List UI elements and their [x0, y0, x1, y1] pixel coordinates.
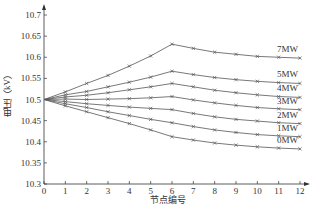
- y-tick-label: 10.7: [25, 10, 41, 20]
- series-label: 2MW: [277, 110, 299, 120]
- x-tick-label: 7: [191, 186, 196, 196]
- x-tick-label: 12: [296, 186, 305, 196]
- series-line-1MW: [44, 100, 300, 137]
- x-marker-icon: [128, 65, 131, 68]
- y-axis-title: 电压（kV）: [2, 70, 16, 117]
- x-tick-label: 10: [253, 186, 263, 196]
- y-tick-label: 10.6: [25, 52, 41, 62]
- x-tick-label: 4: [127, 186, 132, 196]
- series-label: 5MW: [277, 69, 299, 79]
- x-axis-title: 节点编号: [150, 193, 186, 206]
- x-axis-arrow-icon: [304, 182, 310, 186]
- x-tick-label: 9: [234, 186, 239, 196]
- x-tick-label: 1: [63, 186, 68, 196]
- series-label: 0MW: [277, 135, 299, 145]
- series-line-4MW: [44, 83, 300, 99]
- voltage-line-chart: 10.310.3510.410.4510.510.5510.610.6510.7…: [0, 0, 312, 209]
- x-tick-label: 11: [274, 186, 283, 196]
- y-tick-label: 10.65: [21, 31, 42, 41]
- x-tick-label: 8: [212, 186, 217, 196]
- y-tick-label: 10.4: [25, 137, 41, 147]
- x-tick-label: 2: [84, 186, 89, 196]
- y-tick-label: 10.3: [25, 179, 41, 189]
- series-label: 7MW: [277, 44, 299, 54]
- x-tick-label: 0: [42, 186, 47, 196]
- y-tick-label: 10.55: [21, 73, 42, 83]
- series-label: 1MW: [277, 123, 299, 133]
- x-tick-label: 3: [106, 186, 111, 196]
- chart-canvas: 10.310.3510.410.4510.510.5510.610.6510.7…: [0, 0, 312, 209]
- series-label: 3MW: [277, 96, 299, 106]
- series-label: 4MW: [277, 83, 299, 93]
- y-tick-label: 10.35: [21, 158, 42, 168]
- series-line-2MW: [44, 100, 300, 124]
- y-tick-label: 10.5: [25, 95, 41, 105]
- x-marker-icon: [149, 54, 152, 57]
- y-tick-label: 10.45: [21, 116, 42, 126]
- series-line-7MW: [44, 44, 300, 99]
- y-axis-arrow-icon: [42, 4, 46, 10]
